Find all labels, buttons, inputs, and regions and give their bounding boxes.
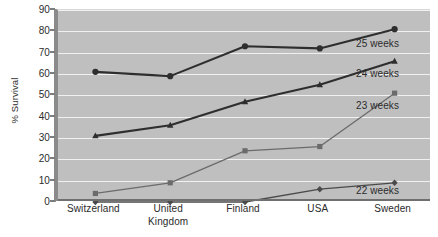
x-axis-line bbox=[58, 199, 430, 201]
series-22-weeks bbox=[92, 180, 397, 206]
data-point-marker bbox=[168, 180, 173, 185]
y-tick-label: 10 bbox=[4, 174, 50, 185]
x-tick-label: Sweden bbox=[338, 203, 438, 216]
y-tick-mark bbox=[50, 157, 55, 159]
y-tick-mark bbox=[50, 72, 55, 74]
y-tick-label: 80 bbox=[4, 25, 50, 36]
y-tick-mark bbox=[50, 8, 55, 10]
series-annotation: 24 weeks bbox=[356, 68, 399, 79]
x-tick-label-line: Sweden bbox=[338, 203, 438, 216]
x-tick-label-line: Kingdom bbox=[113, 216, 223, 229]
data-point-marker bbox=[391, 58, 397, 64]
data-point-marker bbox=[317, 144, 322, 149]
series-24-weeks bbox=[92, 58, 398, 139]
series-line bbox=[95, 29, 394, 76]
y-tick-label: 40 bbox=[4, 110, 50, 121]
y-tick-mark bbox=[50, 115, 55, 117]
data-point-marker bbox=[242, 43, 248, 49]
y-tick-mark bbox=[50, 136, 55, 138]
y-tick-label: 70 bbox=[4, 46, 50, 57]
y-tick-label: 30 bbox=[4, 132, 50, 143]
data-point-marker bbox=[93, 191, 98, 196]
series-annotation: 23 weeks bbox=[356, 100, 399, 111]
data-point-marker bbox=[317, 45, 323, 51]
data-point-marker bbox=[92, 69, 98, 75]
y-axis-ticks: 0102030405060708090 bbox=[0, 9, 50, 201]
series-line bbox=[95, 93, 394, 193]
y-tick-mark bbox=[50, 93, 55, 95]
y-tick-mark bbox=[50, 179, 55, 181]
data-point-marker bbox=[242, 148, 247, 153]
y-tick-label: 50 bbox=[4, 89, 50, 100]
y-tick-label: 20 bbox=[4, 153, 50, 164]
data-point-marker bbox=[167, 73, 173, 79]
series-23-weeks bbox=[93, 91, 397, 196]
y-tick-label: 60 bbox=[4, 68, 50, 79]
y-tick-label: 90 bbox=[4, 4, 50, 15]
series-annotation: 22 weeks bbox=[356, 185, 399, 196]
x-axis-labels: SwitzerlandUnitedKingdomFinlandUSASweden bbox=[56, 203, 430, 237]
y-tick-mark bbox=[50, 51, 55, 53]
series-25-weeks bbox=[92, 26, 397, 79]
series-annotation: 25 weeks bbox=[356, 38, 399, 49]
y-tick-mark bbox=[50, 200, 55, 202]
data-point-marker bbox=[317, 186, 323, 193]
data-point-marker bbox=[392, 26, 398, 32]
data-point-marker bbox=[392, 91, 397, 96]
y-tick-mark bbox=[50, 29, 55, 31]
survival-line-chart: % Survival 0102030405060708090 Switzerla… bbox=[0, 0, 438, 237]
